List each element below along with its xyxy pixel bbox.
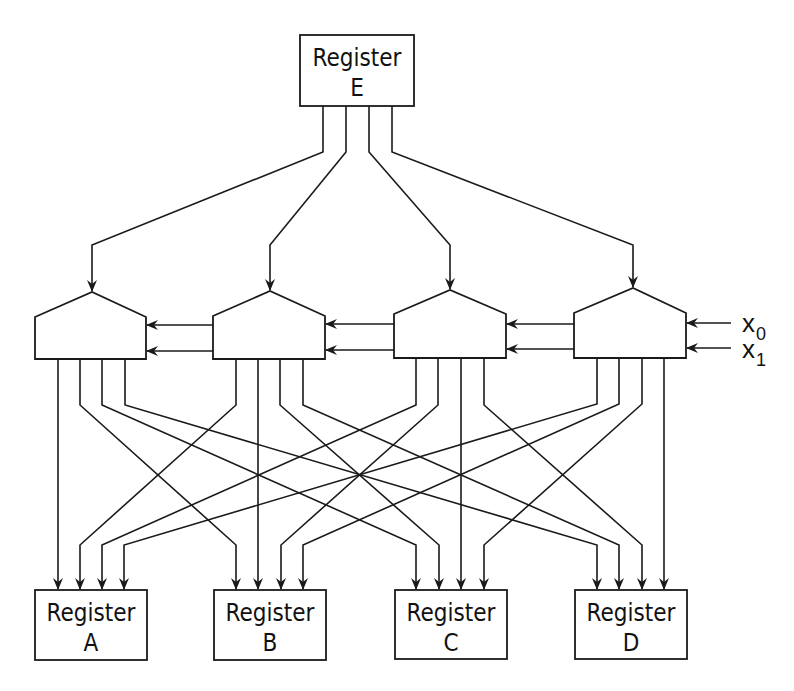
selector-unit-2 — [213, 291, 325, 359]
wire-u1-to-reg-c — [102, 359, 416, 589]
selector-unit-3 — [394, 290, 506, 358]
crossbar-wires — [58, 358, 664, 589]
register-e-letter: E — [350, 74, 364, 102]
register-a-title: Register — [47, 599, 136, 627]
register-transpose-diagram: Register E x0 x1 — [0, 0, 794, 691]
wire-e-to-unit-1 — [92, 106, 323, 291]
register-a-letter: A — [84, 629, 99, 657]
wire-u3-to-reg-a — [102, 358, 416, 589]
register-b: Register B — [214, 590, 326, 660]
selector-unit-4 — [574, 288, 686, 358]
register-b-title: Register — [226, 599, 315, 627]
register-e-title: Register — [313, 44, 402, 72]
wire-u2-to-reg-a — [80, 359, 236, 589]
wire-e-to-unit-3 — [369, 106, 450, 289]
selector-unit-1 — [35, 292, 146, 359]
wire-u3-to-reg-b — [281, 358, 438, 589]
register-d-letter: D — [623, 629, 640, 657]
register-c-letter: C — [443, 629, 458, 657]
register-b-letter: B — [263, 629, 278, 657]
wire-e-to-unit-4 — [392, 106, 633, 287]
e-to-selector-wires — [92, 106, 633, 291]
register-d: Register D — [575, 590, 687, 659]
register-c: Register C — [395, 590, 507, 659]
register-d-title: Register — [587, 599, 676, 627]
register-c-title: Register — [407, 599, 496, 627]
register-a: Register A — [35, 590, 147, 660]
register-e: Register E — [300, 35, 414, 106]
wire-e-to-unit-2 — [270, 106, 346, 290]
